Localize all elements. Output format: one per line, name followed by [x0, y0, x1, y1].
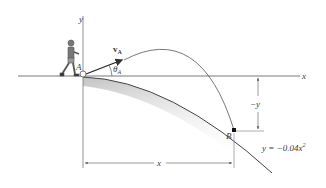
point-a-label: A: [75, 62, 82, 72]
slope-equation: y = −0.04x2: [261, 142, 305, 153]
horizontal-dim-label: x: [156, 158, 161, 168]
y-axis-label: y: [78, 14, 83, 24]
point-b-marker: [232, 128, 236, 132]
velocity-label: vA: [113, 44, 123, 55]
x-axis-label: x: [301, 71, 306, 81]
point-b-label: B: [226, 131, 232, 141]
vertical-dim-label: −y: [250, 99, 260, 109]
angle-arc: [109, 65, 112, 76]
angle-label: θA: [113, 64, 121, 75]
projectile-diagram: x y vA θA A B −y x y = −0.04x2: [0, 0, 326, 188]
